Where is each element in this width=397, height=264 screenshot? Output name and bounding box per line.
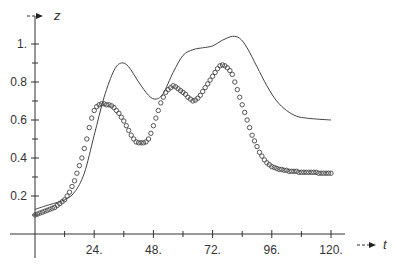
- data-point: [127, 128, 131, 132]
- x-axis-arrow-icon: [357, 242, 376, 248]
- y-tick-label: 0.4: [10, 151, 27, 165]
- data-point: [75, 171, 79, 175]
- data-point: [67, 190, 71, 194]
- data-point: [243, 110, 247, 114]
- data-point: [238, 95, 242, 99]
- data-point: [255, 144, 259, 148]
- data-point: [252, 139, 256, 143]
- data-point: [250, 133, 254, 137]
- y-tick-label: 1.: [17, 37, 27, 51]
- data-point: [82, 146, 86, 150]
- data-point: [80, 156, 84, 160]
- x-tick-label: 48.: [145, 243, 162, 257]
- y-tick-label: 0.8: [10, 75, 27, 89]
- data-points: [33, 63, 333, 218]
- data-point: [149, 131, 153, 135]
- y-tick-label: 0.6: [10, 113, 27, 127]
- data-point: [77, 163, 81, 167]
- data-point: [90, 116, 94, 120]
- data-point: [235, 87, 239, 91]
- data-point: [215, 67, 219, 71]
- data-point: [146, 137, 150, 141]
- data-point: [154, 116, 158, 120]
- data-point: [159, 101, 163, 105]
- data-point: [72, 179, 76, 183]
- data-point: [151, 124, 155, 128]
- data-point: [124, 124, 128, 128]
- data-point: [114, 108, 118, 112]
- x-tick-label: 24.: [86, 243, 103, 257]
- data-point: [233, 80, 237, 84]
- data-point: [70, 184, 74, 188]
- data-point: [161, 95, 165, 99]
- x-tick-label: 120.: [319, 243, 342, 257]
- data-point: [230, 72, 234, 76]
- data-point: [85, 137, 89, 141]
- data-point: [245, 118, 249, 122]
- x-axis-label: t: [383, 237, 388, 252]
- x-tick-label: 96.: [263, 243, 280, 257]
- data-point: [132, 137, 136, 141]
- y-tick-label: 0.2: [10, 189, 27, 203]
- chart: 24.48.72.96.120. 0.20.40.60.81. z t: [0, 0, 397, 264]
- axes: 24.48.72.96.120. 0.20.40.60.81. z t: [10, 8, 388, 258]
- data-point: [122, 119, 126, 123]
- data-point: [156, 108, 160, 112]
- model-curve: [35, 36, 331, 209]
- data-point: [262, 158, 266, 162]
- data-point: [247, 125, 251, 129]
- x-tick-label: 72.: [204, 243, 221, 257]
- data-point: [240, 103, 244, 107]
- y-axis-label: z: [53, 8, 61, 23]
- data-point: [87, 125, 91, 129]
